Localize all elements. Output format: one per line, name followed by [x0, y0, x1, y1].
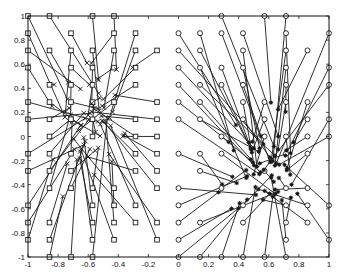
square-marker	[47, 134, 52, 139]
square-marker	[47, 186, 52, 191]
circle-marker	[176, 203, 181, 208]
square-marker	[133, 117, 138, 122]
circle-marker	[305, 100, 310, 105]
square-marker	[133, 31, 138, 36]
asterisk-marker	[268, 155, 273, 160]
asterisk-marker	[249, 157, 254, 162]
circle-marker	[241, 65, 246, 70]
square-marker	[47, 83, 52, 88]
circle-marker	[219, 65, 224, 70]
circle-marker	[219, 151, 224, 156]
circle-marker	[219, 31, 224, 36]
square-marker	[69, 151, 74, 156]
circle-marker	[305, 220, 310, 225]
connection-line	[265, 197, 273, 257]
circle-marker	[305, 203, 310, 208]
circle-marker	[219, 186, 224, 191]
asterisk-marker	[295, 191, 300, 196]
square-marker	[47, 117, 52, 122]
asterisk-marker	[254, 193, 259, 198]
asterisk-marker	[244, 168, 249, 173]
asterisk-marker	[226, 140, 231, 145]
square-marker	[133, 134, 138, 139]
asterisk-marker	[283, 153, 288, 158]
circle-marker	[176, 117, 181, 122]
asterisk-marker	[288, 151, 293, 156]
asterisk-marker	[284, 148, 289, 153]
asterisk-marker	[261, 198, 266, 203]
asterisk-marker	[291, 140, 296, 145]
circle-marker	[176, 220, 181, 225]
y-tick-label: -0.2	[11, 157, 25, 166]
x-tick-label: 0.4	[233, 260, 245, 269]
square-marker	[47, 48, 52, 53]
asterisk-marker	[230, 174, 235, 179]
square-marker	[69, 83, 74, 88]
asterisk-marker	[289, 195, 294, 200]
circle-marker	[176, 65, 181, 70]
circle-marker	[241, 31, 246, 36]
square-marker	[90, 134, 95, 139]
connection-line	[179, 154, 233, 177]
asterisk-marker	[285, 166, 290, 171]
x-marker	[51, 157, 55, 161]
square-marker	[112, 31, 117, 36]
asterisk-marker	[234, 181, 239, 186]
square-marker	[155, 48, 160, 53]
asterisk-marker	[282, 162, 287, 167]
connection-line	[50, 141, 86, 240]
circle-marker	[262, 134, 267, 139]
x-tick-label: -0.6	[81, 260, 95, 269]
asterisk-marker	[273, 187, 278, 192]
asterisk-marker	[234, 123, 239, 128]
asterisk-marker	[257, 161, 262, 166]
y-tick-label: 1	[21, 12, 26, 21]
square-marker	[90, 83, 95, 88]
connection-line	[115, 95, 157, 102]
circle-marker	[176, 237, 181, 242]
asterisk-marker	[236, 206, 241, 211]
asterisk-marker	[269, 100, 274, 105]
circle-marker	[176, 48, 181, 53]
circle-marker	[284, 82, 289, 87]
connection-line	[179, 68, 254, 148]
square-marker	[133, 203, 138, 208]
asterisk-marker	[257, 146, 262, 151]
circle-marker	[284, 186, 289, 191]
x-tick-label: 1	[327, 260, 332, 269]
y-tick-label: 0.8	[14, 36, 26, 45]
x-marker	[89, 61, 93, 65]
asterisk-marker	[273, 153, 278, 158]
asterisk-marker	[269, 175, 274, 180]
square-marker	[69, 48, 74, 53]
x-tick-label: -0.2	[142, 260, 156, 269]
circle-marker	[176, 82, 181, 87]
x-marker	[101, 97, 105, 101]
circle-marker	[241, 48, 246, 53]
circle-marker	[219, 134, 224, 139]
connection-line	[94, 175, 135, 223]
square-marker	[69, 31, 74, 36]
square-marker	[69, 169, 74, 174]
y-tick-label: 0.4	[14, 84, 26, 93]
circle-marker	[284, 48, 289, 53]
circle-marker	[262, 100, 267, 105]
y-tick-label: -1	[18, 253, 26, 262]
circle-marker	[198, 82, 203, 87]
y-tick-label: 0	[21, 133, 26, 142]
circle-marker	[198, 48, 203, 53]
asterisk-marker	[270, 194, 275, 199]
asterisk-marker	[274, 161, 279, 166]
asterisk-marker	[272, 144, 277, 149]
asterisk-marker	[245, 197, 250, 202]
x-tick-label: 0	[176, 260, 181, 269]
connection-line	[71, 160, 77, 257]
circle-marker	[198, 117, 203, 122]
circle-marker	[219, 82, 224, 87]
asterisk-marker	[231, 148, 236, 153]
square-marker	[112, 186, 117, 191]
circle-marker	[305, 134, 310, 139]
square-marker	[69, 186, 74, 191]
x-marker	[82, 111, 86, 115]
circle-marker	[198, 100, 203, 105]
